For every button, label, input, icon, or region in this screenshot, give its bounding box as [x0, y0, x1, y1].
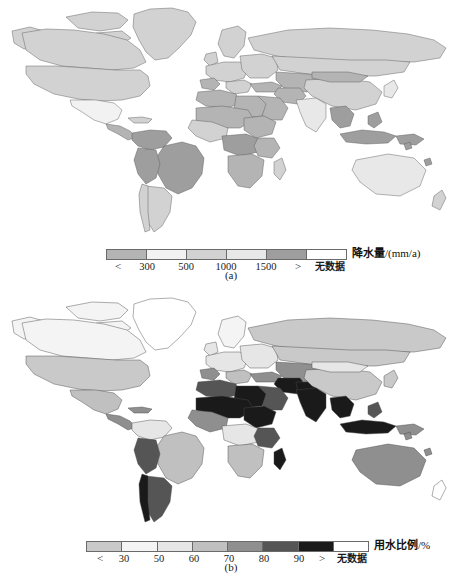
region-united-states	[26, 66, 150, 101]
legend-swatch-3	[193, 542, 228, 551]
region-pacific-islands-2	[424, 158, 432, 166]
region-brazil	[156, 432, 204, 484]
legend-swatch-1	[122, 542, 157, 551]
legend-title-water-use-ratio: 用水比例/%	[374, 538, 430, 553]
region-east-africa	[254, 428, 280, 448]
region-scandinavia	[218, 316, 246, 348]
region-pacific-islands-2	[424, 448, 432, 456]
region-caribbean	[128, 117, 152, 123]
legend-title-text: 用水比例	[374, 539, 418, 552]
region-mexico	[70, 100, 122, 124]
region-argentina	[146, 186, 172, 232]
region-eastern-europe	[240, 344, 278, 368]
legend-title-precipitation: 降水量/(mm/a)	[352, 246, 420, 261]
region-australia	[352, 154, 426, 196]
legend-swatch-0	[87, 542, 122, 551]
region-brazil	[156, 142, 204, 194]
region-mexico	[70, 390, 122, 414]
region-italy-balkans	[226, 80, 252, 94]
subfigure-label-a: (a)	[0, 268, 462, 282]
region-philippines	[368, 402, 382, 418]
region-india	[296, 98, 326, 132]
region-caribbean	[128, 407, 152, 413]
region-new-zealand	[432, 190, 446, 210]
region-argentina	[146, 476, 172, 522]
region-southeast-asia	[330, 396, 354, 418]
region-central-america	[106, 414, 136, 430]
world-map-precipitation	[0, 0, 462, 240]
region-australia	[352, 444, 426, 486]
legend-swatch-nodata	[307, 250, 346, 259]
region-southern-africa	[228, 154, 264, 188]
region-greenland	[133, 298, 196, 350]
world-map-water-use-ratio	[0, 290, 462, 530]
legend-swatch-6	[299, 542, 334, 551]
region-japan	[384, 80, 398, 98]
region-eastern-europe	[240, 54, 278, 78]
region-canada-arctic	[66, 302, 128, 321]
region-new-zealand	[432, 480, 446, 500]
legend-swatch-5	[263, 542, 298, 551]
figure-panel-a: < 300 500 1000 1500 > 无数据 降水量/(mm/a) (a)	[0, 0, 462, 290]
region-southeast-asia	[330, 106, 354, 128]
region-canada-arctic	[66, 12, 128, 31]
legend-title-unit: /(mm/a)	[385, 247, 420, 259]
subfigure-label-b: (b)	[0, 560, 462, 574]
region-japan	[384, 370, 398, 388]
legend-swatch-4	[228, 542, 263, 551]
legend-swatch-3	[227, 250, 267, 259]
region-united-states	[26, 356, 150, 391]
region-peru-bolivia	[134, 148, 160, 184]
legend-swatch-2	[187, 250, 227, 259]
region-indonesia	[340, 130, 396, 144]
legend-title-text: 降水量	[352, 247, 385, 260]
region-greenland	[133, 8, 196, 60]
region-philippines	[368, 112, 382, 128]
legend-swatch-0	[107, 250, 147, 259]
legend-swatch-2	[158, 542, 193, 551]
region-central-america	[106, 124, 136, 140]
legend-swatch-nodata	[334, 542, 368, 551]
region-india	[296, 388, 326, 422]
region-east-africa	[254, 138, 280, 158]
region-scandinavia	[218, 26, 246, 58]
region-southern-africa	[228, 444, 264, 478]
legend-title-unit: /%	[418, 539, 430, 551]
region-italy-balkans	[226, 370, 252, 384]
legend-swatch-4	[267, 250, 307, 259]
region-madagascar	[274, 448, 286, 470]
legend-swatch-1	[147, 250, 187, 259]
region-madagascar	[274, 158, 286, 180]
region-indonesia	[340, 420, 396, 434]
figure-panel-b: < 30 50 60 70 80 90 > 无数据 用水比例/% (b)	[0, 290, 462, 583]
region-peru-bolivia	[134, 438, 160, 474]
